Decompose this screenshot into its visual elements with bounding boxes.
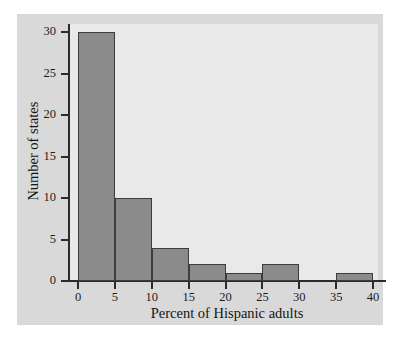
y-axis-tick xyxy=(61,156,68,158)
x-axis-tick-label: 5 xyxy=(100,291,130,304)
y-axis-tick xyxy=(61,114,68,116)
histogram-bar xyxy=(336,273,373,281)
histogram-bar xyxy=(152,248,189,281)
x-axis-title: Percent of Hispanic adults xyxy=(68,306,386,321)
histogram-bar xyxy=(189,264,226,281)
x-axis-tick xyxy=(372,282,374,289)
y-axis-tick-label: 0 xyxy=(26,274,56,287)
x-axis-tick xyxy=(77,282,79,289)
x-axis-tick-label: 15 xyxy=(174,291,204,304)
x-axis-tick-label: 35 xyxy=(321,291,351,304)
y-axis-tick xyxy=(61,197,68,199)
y-axis-tick-label: 5 xyxy=(26,233,56,246)
y-axis-tick-label: 30 xyxy=(26,25,56,38)
x-axis-tick xyxy=(298,282,300,289)
x-axis-tick-label: 10 xyxy=(137,291,167,304)
x-axis-tick xyxy=(114,282,116,289)
y-axis-line xyxy=(68,24,70,281)
histogram-bar xyxy=(262,264,299,281)
y-axis-tick xyxy=(61,31,68,33)
x-axis-tick-label: 25 xyxy=(247,291,277,304)
histogram-bar xyxy=(78,32,115,281)
x-axis-tick-label: 0 xyxy=(63,291,93,304)
x-axis-tick-label: 40 xyxy=(358,291,388,304)
y-axis-title: Number of states xyxy=(26,71,41,231)
x-axis-tick-label: 20 xyxy=(211,291,241,304)
x-axis-tick xyxy=(225,282,227,289)
x-axis-tick xyxy=(261,282,263,289)
y-axis-tick xyxy=(61,73,68,75)
histogram-bar xyxy=(226,273,263,281)
x-axis-tick xyxy=(151,282,153,289)
x-axis-tick-label: 30 xyxy=(284,291,314,304)
x-axis-tick xyxy=(188,282,190,289)
x-axis-tick xyxy=(335,282,337,289)
histogram-bar xyxy=(115,198,152,281)
y-axis-tick xyxy=(61,239,68,241)
y-axis-tick xyxy=(61,280,68,282)
